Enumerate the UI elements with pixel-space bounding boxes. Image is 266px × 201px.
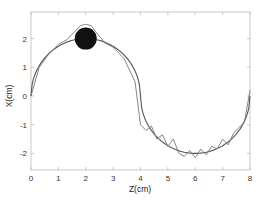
x-axis-label: Z(cm) (129, 184, 151, 194)
y-axis-label: X(cm) (4, 85, 14, 108)
x-tick-label: 8 (248, 174, 253, 183)
x-tick-label: 0 (29, 174, 34, 183)
x-tick-label: 2 (84, 174, 89, 183)
y-tick-label: 1 (23, 63, 28, 72)
y-tick-label: -1 (20, 121, 28, 130)
y-tick-label: 0 (23, 92, 28, 101)
x-tick-label: 7 (220, 174, 225, 183)
x-tick-label: 4 (138, 174, 143, 183)
trajectory-chart: 012345678 -2-1012 Z(cm) X(cm) (0, 0, 266, 201)
obstacle-circle (75, 28, 97, 50)
x-tick-label: 6 (193, 174, 198, 183)
x-tick-label: 5 (166, 174, 171, 183)
x-tick-label: 3 (111, 174, 116, 183)
annotations-group (75, 28, 97, 50)
y-tick-label: 2 (23, 35, 28, 44)
x-tick-label: 1 (56, 174, 61, 183)
y-tick-label: -2 (20, 149, 28, 158)
